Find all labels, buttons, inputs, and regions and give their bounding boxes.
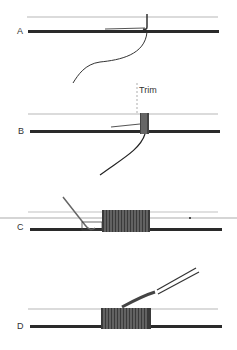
panel-label-c: C [17,222,24,232]
panel-b [28,83,220,175]
panel-a [27,14,219,83]
panel-c [0,197,237,232]
trim-annotation: Trim [139,85,157,95]
panel-label-d: D [17,321,24,331]
panel-label-a: A [17,26,23,36]
panel-d [28,268,222,329]
panel-label-b: B [18,126,24,136]
rod-wrapping-illustration [0,0,237,350]
